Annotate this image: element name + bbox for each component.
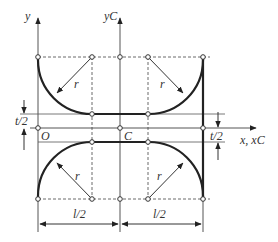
origin-label: O — [41, 129, 50, 143]
radius-label-bottom-right: r — [157, 169, 162, 183]
half-length-label-right: l/2 — [153, 207, 166, 221]
y-axis-label: y — [24, 9, 31, 23]
half-length-label-left: l/2 — [73, 207, 86, 221]
radius-label-top-left: r — [74, 77, 79, 91]
thickness-label-left: t/2 — [15, 114, 28, 128]
x-axis-label: x, xC — [239, 133, 266, 147]
axes — [20, 18, 256, 232]
section-diagram: y yC x, xC O C r r r r t/2 t/2 l/2 l/2 — [0, 0, 278, 242]
thickness-label-right: t/2 — [210, 129, 223, 143]
radius-label-bottom-left: r — [75, 169, 80, 183]
yc-axis-label: yC — [103, 9, 118, 23]
centroid-label: C — [124, 129, 133, 143]
radius-label-top-right: r — [160, 77, 165, 91]
